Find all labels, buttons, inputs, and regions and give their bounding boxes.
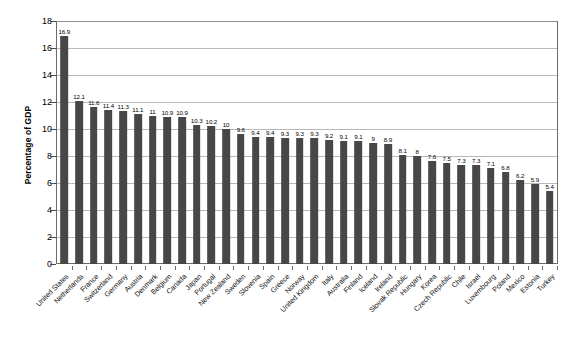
bar[interactable] (178, 117, 186, 264)
x-tick-mark (145, 266, 146, 270)
x-tick-mark (307, 266, 308, 270)
bar[interactable] (428, 161, 436, 264)
bar-slot[interactable]: 10.9 (175, 21, 190, 264)
bar-slot[interactable]: 16.9 (57, 21, 72, 264)
bar-slot[interactable]: 7.5 (439, 21, 454, 264)
bar-slot[interactable]: 11.3 (116, 21, 131, 264)
bar[interactable] (325, 140, 333, 264)
bar[interactable] (413, 156, 421, 264)
bar[interactable] (516, 180, 524, 264)
x-tick-mark (483, 266, 484, 270)
bar-slot[interactable]: 9.3 (278, 21, 293, 264)
y-tick-mark (50, 237, 56, 238)
x-tick-mark (557, 266, 558, 270)
bar[interactable] (369, 143, 377, 265)
bar-slot[interactable]: 5.4 (542, 21, 557, 264)
bar-slot[interactable]: 9.4 (248, 21, 263, 264)
bar[interactable] (384, 144, 392, 264)
y-tick-mark (50, 75, 56, 76)
bar[interactable] (443, 163, 451, 264)
bar-value-label: 9.4 (251, 129, 259, 136)
bar-slot[interactable]: 7.6 (425, 21, 440, 264)
x-tick-mark (86, 266, 87, 270)
bar-slot[interactable]: 8 (410, 21, 425, 264)
bar[interactable] (502, 172, 510, 264)
bar-slot[interactable]: 9.3 (307, 21, 322, 264)
bar-slot[interactable]: 10 (219, 21, 234, 264)
bar[interactable] (237, 134, 245, 264)
x-tick-mark (219, 266, 220, 270)
bar[interactable] (531, 184, 539, 264)
y-tick-mark (50, 264, 56, 265)
bar-slot[interactable]: 9.1 (336, 21, 351, 264)
bar[interactable] (266, 137, 274, 264)
bar-slot[interactable]: 8.9 (381, 21, 396, 264)
bar-slot[interactable]: 10.3 (189, 21, 204, 264)
bar-slot[interactable]: 7.3 (454, 21, 469, 264)
bar-value-label: 9.2 (325, 132, 333, 139)
bar[interactable] (208, 126, 216, 264)
bar[interactable] (487, 168, 495, 264)
bar[interactable] (75, 101, 83, 264)
bar[interactable] (281, 138, 289, 264)
bar[interactable] (193, 125, 201, 264)
bar-slot[interactable]: 6.2 (513, 21, 528, 264)
bar-slot[interactable]: 11.1 (131, 21, 146, 264)
bar-slot[interactable]: 10.9 (160, 21, 175, 264)
bar-slot[interactable]: 10.2 (204, 21, 219, 264)
bar[interactable] (119, 111, 127, 264)
bar[interactable] (163, 117, 171, 264)
bar-value-label: 7.1 (487, 160, 495, 167)
y-tick-mark (50, 21, 56, 22)
bar-slot[interactable]: 11 (145, 21, 160, 264)
bar-value-label: 11.1 (132, 106, 143, 113)
bar[interactable] (149, 116, 157, 265)
bar-slot[interactable]: 9.3 (292, 21, 307, 264)
bar-slot[interactable]: 7.3 (469, 21, 484, 264)
y-tick-label: 4 (12, 205, 52, 215)
bar[interactable] (90, 107, 98, 264)
y-tick-label: 6 (12, 178, 52, 188)
bar-slot[interactable]: 9 (366, 21, 381, 264)
bar[interactable] (355, 141, 363, 264)
bar-value-label: 11.4 (103, 102, 114, 109)
bar-slot[interactable]: 9.6 (233, 21, 248, 264)
bar[interactable] (222, 129, 230, 264)
bar[interactable] (472, 165, 480, 264)
bar-slot[interactable]: 11.4 (101, 21, 116, 264)
bar-slot[interactable]: 9.4 (263, 21, 278, 264)
bar[interactable] (105, 110, 113, 264)
bar-slot[interactable]: 12.1 (72, 21, 87, 264)
bar[interactable] (458, 165, 466, 264)
bar[interactable] (340, 141, 348, 264)
bar[interactable] (311, 138, 319, 264)
bar-value-label: 11.6 (88, 99, 99, 106)
bar-slot[interactable]: 11.6 (86, 21, 101, 264)
x-tick-mark (528, 266, 529, 270)
x-tick-mark (248, 266, 249, 270)
bar-slot[interactable]: 9.1 (351, 21, 366, 264)
bar-slot[interactable]: 8.1 (395, 21, 410, 264)
bar-value-label: 9.6 (237, 126, 245, 133)
y-tick-label: 18 (12, 16, 52, 26)
bar[interactable] (546, 191, 554, 264)
bar[interactable] (61, 36, 69, 264)
bar-slot[interactable]: 6.8 (498, 21, 513, 264)
y-tick-label: 2 (12, 232, 52, 242)
y-tick-mark (50, 210, 56, 211)
x-tick-mark (101, 266, 102, 270)
y-tick-mark (50, 183, 56, 184)
bar[interactable] (399, 155, 407, 264)
bar[interactable] (252, 137, 260, 264)
bar-slot[interactable]: 7.1 (483, 21, 498, 264)
bars-layer: 16.912.111.611.411.311.11110.910.910.310… (57, 21, 557, 264)
y-tick-label: 0 (12, 259, 52, 269)
bar-slot[interactable]: 9.2 (322, 21, 337, 264)
bar[interactable] (296, 138, 304, 264)
bar-value-label: 8 (416, 148, 419, 155)
y-tick-label: 8 (12, 151, 52, 161)
bar-value-label: 6.2 (516, 172, 524, 179)
bar[interactable] (134, 114, 142, 264)
bar-slot[interactable]: 5.9 (528, 21, 543, 264)
bar-value-label: 8.1 (398, 147, 406, 154)
